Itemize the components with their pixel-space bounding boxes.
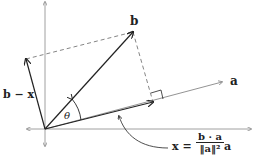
theta-arc xyxy=(72,99,81,120)
projection-fraction: b · a ‖a‖² xyxy=(196,131,224,154)
label-b-minus-x: b − x xyxy=(3,88,34,101)
fraction-numerator: b · a xyxy=(196,131,224,143)
label-a: a xyxy=(230,74,238,88)
annotation-arrow xyxy=(119,116,168,148)
vector-b xyxy=(45,32,133,129)
vector-x xyxy=(45,102,153,129)
fraction-denominator: ‖a‖² xyxy=(200,143,221,154)
label-b: b xyxy=(130,14,138,28)
dashed-perp xyxy=(133,32,153,102)
dashed-top xyxy=(26,32,133,59)
label-trailing-a: a xyxy=(224,140,231,153)
label-theta: θ xyxy=(64,110,70,121)
label-x-eq: x = xyxy=(172,140,192,153)
right-angle-marker xyxy=(151,90,163,99)
